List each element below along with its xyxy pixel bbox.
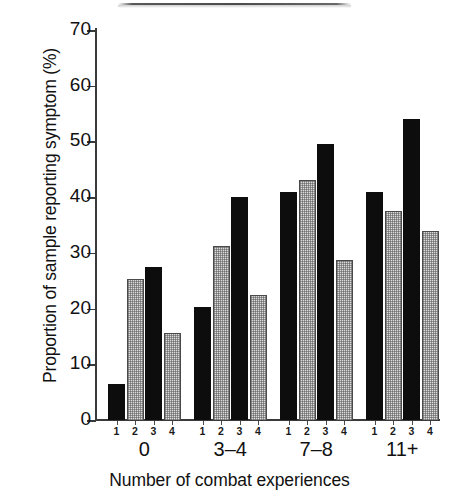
x-axis-subtick-label: 2	[300, 425, 314, 437]
bar-group	[194, 30, 267, 420]
x-axis-subtick-label: 2	[128, 425, 142, 437]
bar	[280, 192, 297, 420]
bar	[366, 192, 383, 420]
x-axis-subtick-label: 2	[386, 425, 400, 437]
bar	[108, 384, 125, 420]
x-axis-subtick-label: 4	[423, 425, 437, 437]
bar	[231, 197, 248, 420]
bar	[194, 307, 211, 420]
bar	[250, 295, 267, 420]
plot-area: 010203040506070	[96, 30, 438, 420]
y-axis-tick-label: 60	[70, 74, 91, 96]
y-axis-tick-label: 0	[80, 408, 91, 430]
bar	[385, 211, 402, 420]
bar	[164, 333, 181, 420]
y-axis-tick-label: 10	[70, 352, 91, 374]
x-axis-subtick-label: 4	[337, 425, 351, 437]
x-axis-subtick-label: 3	[233, 425, 247, 437]
bar	[336, 260, 353, 420]
x-axis-subtick-label: 4	[251, 425, 265, 437]
x-axis-subtick-label: 3	[319, 425, 333, 437]
bar	[127, 279, 144, 421]
x-axis-subtick-label: 1	[196, 425, 210, 437]
y-axis-tick-label: 40	[70, 185, 91, 207]
x-axis-subtick-label: 1	[110, 425, 124, 437]
x-axis-subtick-label: 1	[282, 425, 296, 437]
bar-group	[280, 30, 353, 420]
y-axis-tick-label: 30	[70, 241, 91, 263]
x-axis-subtick-label: 3	[147, 425, 161, 437]
y-axis-tick-label: 20	[70, 297, 91, 319]
x-axis-subtick-label: 1	[368, 425, 382, 437]
bar-group	[108, 30, 181, 420]
y-axis-tick-label: 50	[70, 129, 91, 151]
scan-artifact-shadow	[118, 5, 351, 8]
bar	[145, 267, 162, 420]
bar	[403, 119, 420, 420]
x-axis-group-label: 11+	[342, 438, 459, 461]
y-axis-tick-label: 70	[70, 18, 91, 40]
bar	[317, 144, 334, 420]
x-axis-subtick-label: 4	[165, 425, 179, 437]
x-axis-title: Number of combat experiences	[0, 470, 459, 491]
bar	[213, 246, 230, 420]
x-axis-subtick-label: 2	[214, 425, 228, 437]
bar-group	[366, 30, 439, 420]
chart-figure: Proportion of sample reporting symptom (…	[0, 0, 459, 502]
bar	[422, 231, 439, 420]
x-axis-subtick-label: 3	[405, 425, 419, 437]
y-axis-title: Proportion of sample reporting symptom (…	[40, 16, 61, 416]
bar	[299, 180, 316, 420]
